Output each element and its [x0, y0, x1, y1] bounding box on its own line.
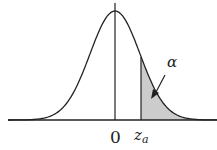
normal-curve-diagram: α 0 za [0, 0, 217, 150]
alpha-arrow [155, 75, 165, 94]
upper-tail-shaded-area [141, 57, 217, 120]
alpha-label: α [167, 53, 177, 71]
critical-value-label: za [133, 126, 148, 146]
density-curve [8, 11, 217, 120]
origin-label: 0 [110, 127, 121, 147]
